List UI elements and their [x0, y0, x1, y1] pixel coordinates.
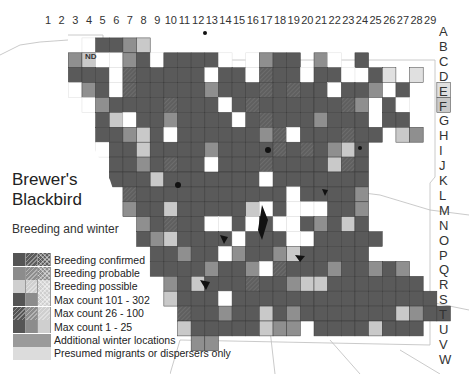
grid-cell: [300, 276, 314, 291]
grid-cell: [232, 98, 246, 113]
grid-cell: [109, 112, 123, 127]
grid-cell: [178, 53, 192, 68]
grid-cell: [328, 172, 342, 187]
column-label: 27: [397, 14, 409, 26]
grid-cell: [410, 127, 424, 142]
grid-cell: [123, 98, 137, 113]
row-label: E: [439, 83, 448, 98]
grid-cell: [341, 217, 355, 232]
grid-cell: [246, 98, 260, 113]
grid-cell: [423, 291, 437, 306]
grid-cell: [232, 83, 246, 98]
grid-cell: [178, 217, 192, 232]
row-label: U: [439, 322, 448, 337]
grid-cell: [109, 83, 123, 98]
grid-cell: [355, 112, 369, 127]
grid-cell: [137, 232, 151, 247]
grid-cell: [314, 98, 328, 113]
grid-cell: [287, 232, 301, 247]
grid-cell: [328, 306, 342, 321]
grid-cell: [355, 53, 369, 68]
grid-cell: [328, 291, 342, 306]
grid-cell: [164, 157, 178, 172]
grid-cell: [205, 142, 219, 157]
grid-cell: [150, 172, 164, 187]
grid-cell: [205, 202, 219, 217]
grid-cell: [287, 98, 301, 113]
grid-cell: [396, 276, 410, 291]
column-label: 11: [179, 14, 190, 26]
grid-cell: [259, 276, 273, 291]
grid-cell: [96, 112, 110, 127]
grid-cell: [273, 127, 287, 142]
grid-cell: [369, 306, 383, 321]
grid-cell: [396, 306, 410, 321]
grid-cell: [232, 157, 246, 172]
legend-swatch: [13, 253, 51, 266]
grid-cell: [273, 232, 287, 247]
grid-cell: [109, 142, 123, 157]
grid-cell: [218, 112, 232, 127]
grid-cell: [273, 291, 287, 306]
grid-cell: [273, 98, 287, 113]
grid-cell: [259, 127, 273, 142]
grid-cell: [287, 68, 301, 83]
grid-cell: [246, 232, 260, 247]
grid-cell: [273, 217, 287, 232]
grid-cell: [150, 68, 164, 83]
grid-cell: [396, 83, 410, 98]
grid-cell: [341, 157, 355, 172]
grid-cell: [205, 68, 219, 83]
grid-cell: [355, 321, 369, 336]
row-label: B: [439, 38, 448, 53]
grid-cell: [150, 157, 164, 172]
legend-item: Breeding possible: [13, 280, 231, 293]
legend-item: Max count 26 - 100: [13, 307, 231, 320]
column-label: 4: [86, 14, 92, 26]
column-label: 2: [59, 14, 65, 26]
grid-cell: [355, 261, 369, 276]
grid-cell: [287, 321, 301, 336]
legend-item: Breeding confirmed: [13, 253, 231, 266]
grid-cell: [82, 38, 96, 53]
legend-label: Additional winter locations: [54, 334, 175, 346]
grid-cell: [369, 321, 383, 336]
grid-cell: [109, 38, 123, 53]
column-label: 29: [424, 14, 436, 26]
grid-cell: [109, 68, 123, 83]
grid-cell: [328, 83, 342, 98]
legend-item: Additional winter locations: [13, 333, 231, 346]
grid-cell: [178, 68, 192, 83]
grid-cell: [232, 232, 246, 247]
grid-cell: [178, 98, 192, 113]
grid-cell: [96, 98, 110, 113]
row-label: I: [439, 143, 443, 158]
grid-cell: [137, 53, 151, 68]
grid-cell: [369, 232, 383, 247]
grid-cell: [109, 98, 123, 113]
grid-cell: [259, 306, 273, 321]
column-label: 18: [274, 14, 286, 26]
legend-label: Presumed migrants or dispersers only: [54, 347, 231, 359]
grid-cell: [287, 142, 301, 157]
grid-cell: [137, 202, 151, 217]
grid-cell: [314, 202, 328, 217]
grid-cell: [341, 261, 355, 276]
grid-cell: [232, 127, 246, 142]
grid-cell: [164, 112, 178, 127]
row-label: N: [439, 217, 448, 232]
grid-cell: [273, 202, 287, 217]
grid-cell: [355, 306, 369, 321]
column-label: 7: [127, 14, 133, 26]
column-label: 16: [247, 14, 259, 26]
legend-swatch: [13, 334, 51, 347]
grid-cell: [259, 247, 273, 262]
grid-cell: [246, 291, 260, 306]
grid-cell: [232, 202, 246, 217]
grid-cell: [369, 83, 383, 98]
column-label: 15: [233, 14, 245, 26]
legend-swatch: [13, 293, 51, 306]
grid-cell: [178, 142, 192, 157]
grid-cell: [232, 276, 246, 291]
grid-cell: [287, 202, 301, 217]
